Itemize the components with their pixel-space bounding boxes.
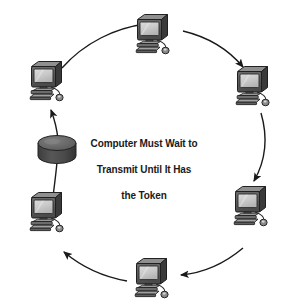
computer-bottom-right[interactable] [234, 187, 267, 226]
link-top-to-top-right [183, 31, 243, 67]
link-bottom-to-bottom-left [64, 252, 127, 281]
computer-bottom-left[interactable] [30, 193, 63, 232]
link-top-left-to-top [62, 24, 145, 68]
token[interactable] [38, 136, 76, 164]
ring-links [51, 24, 265, 281]
computer-bottom[interactable] [135, 259, 168, 298]
computer-top-right[interactable] [236, 67, 269, 106]
link-bottom-right-to-bottom [181, 248, 243, 275]
computer-top-left[interactable] [30, 62, 63, 101]
diagram-canvas: Computer Must Wait to Transmit Until It … [0, 0, 287, 307]
link-top-right-to-bottom-right [254, 113, 265, 181]
computer-top[interactable] [136, 15, 169, 54]
token-ring-diagram [0, 0, 287, 307]
